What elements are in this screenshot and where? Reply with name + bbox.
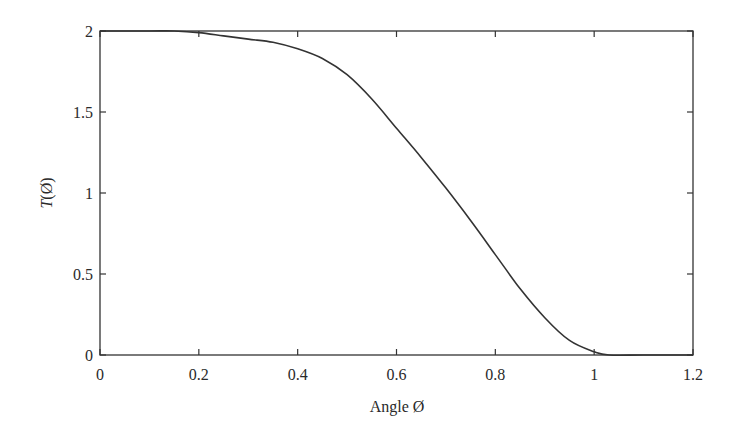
x-tick-label: 0.4 bbox=[288, 366, 308, 383]
y-tick-label: 1 bbox=[85, 185, 93, 202]
y-axis-label: T(Ø) bbox=[38, 177, 56, 208]
y-tick-label: 2 bbox=[85, 23, 93, 40]
y-tick-label: 1.5 bbox=[73, 104, 93, 121]
plot-frame bbox=[100, 31, 693, 355]
data-line-t-phi bbox=[100, 31, 693, 355]
axis-ticks bbox=[100, 31, 693, 355]
plot-border bbox=[100, 31, 693, 355]
y-tick-label: 0.5 bbox=[73, 266, 93, 283]
x-tick-label: 1 bbox=[590, 366, 598, 383]
x-tick-label: 0.2 bbox=[189, 366, 209, 383]
x-tick-label: 0.6 bbox=[387, 366, 407, 383]
x-tick-label: 1.2 bbox=[683, 366, 703, 383]
y-axis-label-arg: (Ø) bbox=[38, 177, 56, 199]
line-chart: 00.20.40.60.811.200.511.52 Angle Ø T(Ø) bbox=[0, 0, 738, 438]
tick-labels: 00.20.40.60.811.200.511.52 bbox=[73, 23, 703, 383]
y-tick-label: 0 bbox=[85, 347, 93, 364]
x-tick-label: 0 bbox=[96, 366, 104, 383]
x-axis-label: Angle Ø bbox=[370, 398, 425, 416]
x-tick-label: 0.8 bbox=[485, 366, 505, 383]
